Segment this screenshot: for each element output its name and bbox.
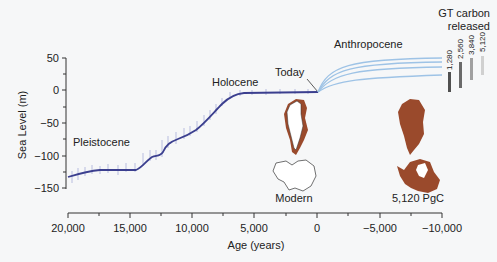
future-label: 5,120 PgC — [392, 192, 444, 204]
future-ice-sheets: 5,120 PgC — [392, 99, 444, 204]
modern-ice-sheets: Modern — [273, 99, 316, 204]
legend-bar-1280 — [448, 72, 451, 92]
x-tick-label: 5,000 — [240, 222, 268, 234]
y-tick-label: 0 — [53, 84, 59, 96]
legend-label: 1,280 — [445, 49, 454, 70]
holocene-label: Holocene — [212, 76, 258, 88]
x-tick-label: 15,000 — [113, 222, 147, 234]
legend-bar-3840 — [470, 58, 473, 80]
x-tick-label: 20,000 — [51, 222, 85, 234]
carbon-legend: GT carbon released 1,280 2,560 3,840 5,1… — [438, 7, 490, 92]
modern-antarctica-icon — [273, 160, 316, 191]
legend-label: 3,840 — [467, 34, 476, 55]
pleistocene-label: Pleistocene — [73, 136, 130, 148]
legend-label: 5,120 — [478, 31, 487, 52]
y-axis: 50 0 −50 −100 −150 Sea Level (m) — [16, 52, 66, 194]
x-tick-label: 0 — [314, 222, 320, 234]
y-tick-label: −50 — [40, 117, 59, 129]
legend-bar-2560 — [459, 62, 462, 88]
x-tick-label: 10,000 — [175, 222, 209, 234]
x-tick-label: −10,000 — [422, 222, 462, 234]
y-tick-label: −150 — [34, 182, 59, 194]
future-greenland-icon — [398, 99, 425, 155]
today-leader-line — [307, 79, 318, 92]
y-tick-label: −100 — [34, 150, 59, 162]
y-tick-label: 50 — [47, 52, 59, 64]
x-axis-label: Age (years) — [228, 239, 285, 251]
x-tick-label: −5,000 — [363, 222, 397, 234]
anthropocene-label: Anthropocene — [334, 38, 403, 50]
legend-bar-5120 — [481, 56, 484, 75]
future-antarctica-icon — [397, 159, 440, 193]
today-label: Today — [275, 66, 305, 78]
modern-label: Modern — [275, 192, 312, 204]
legend-title-line2: released — [448, 20, 490, 32]
y-axis-label: Sea Level (m) — [16, 91, 28, 159]
legend-title-line1: GT carbon — [438, 7, 490, 19]
sea-level-figure: 50 0 −50 −100 −150 Sea Level (m) 20,000 … — [0, 0, 497, 262]
legend-label: 2,560 — [456, 38, 465, 59]
x-axis: 20,000 15,000 10,000 5,000 0 −5,000 −10,… — [51, 213, 462, 251]
projection-lines — [318, 58, 442, 92]
